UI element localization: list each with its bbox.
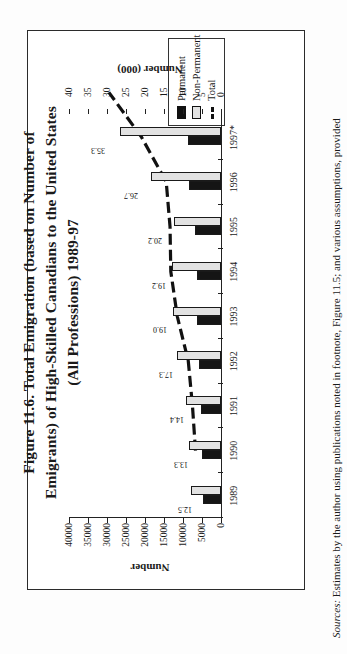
axis-tick-label-category: 1996 [228, 172, 239, 192]
axis-tick-label-left: 25000 [121, 523, 131, 547]
data-label-total: 35.3 [91, 146, 105, 155]
bar-permanent [195, 226, 221, 235]
axis-tick-label-left: 5000 [197, 523, 207, 542]
bar-non-permanent [172, 262, 221, 271]
axis-tick-label-left: 0 [216, 523, 226, 528]
axis-tick-left [183, 518, 184, 523]
plot-area [69, 114, 222, 518]
axis-tick-category [218, 204, 223, 205]
axis-tick-label-left: 30000 [102, 523, 112, 547]
axis-tick-label-category: 1990 [228, 441, 239, 461]
title-line-1: Figure 11.6. Total Emigration (based on … [18, 30, 40, 575]
axis-tick-left [202, 518, 203, 523]
bar-non-permanent [151, 172, 221, 181]
bar-group [69, 248, 221, 293]
axis-tick-category [218, 248, 223, 249]
bar-non-permanent [173, 307, 221, 316]
data-label-total: 14.4 [170, 415, 184, 424]
bar-group [69, 159, 221, 204]
data-label-total: 26.7 [124, 191, 138, 200]
axis-tick-label-category: 1991 [228, 396, 239, 416]
bar-non-permanent [120, 127, 221, 136]
axis-tick-left [107, 518, 108, 523]
axis-tick-label-category: 1994 [228, 262, 239, 282]
axis-tick-category [218, 293, 223, 294]
data-label-total: 19.0 [153, 325, 167, 334]
sources-label: Sources: [330, 600, 342, 638]
bar-non-permanent [177, 351, 221, 360]
bar-non-permanent [191, 486, 221, 495]
axis-tick-label-left: 20000 [140, 523, 150, 547]
data-label-total: 20.2 [148, 235, 162, 244]
axis-tick-category [218, 427, 223, 428]
bar-permanent [189, 181, 221, 190]
bar-permanent [203, 495, 221, 504]
axis-title-left: Number [130, 562, 169, 574]
axis-tick-left [88, 518, 89, 523]
sources-note: Sources: Estimates by the author using p… [330, 38, 347, 638]
axis-tick-label-left: 15000 [159, 523, 169, 547]
axis-tick-left [221, 518, 222, 523]
axis-tick-left [164, 518, 165, 523]
data-label-total: 19.2 [152, 280, 166, 289]
bar-permanent [202, 450, 221, 459]
axis-tick-label-category: 1995 [228, 217, 239, 237]
axis-tick-label-category: 1989 [228, 486, 239, 506]
bar-group [69, 293, 221, 338]
bar-permanent [188, 136, 221, 145]
axis-tick-left [145, 518, 146, 523]
bar-group [69, 472, 221, 517]
bar-group [69, 338, 221, 383]
axis-tick-category [218, 159, 223, 160]
sources-text: Estimates by the author using publicatio… [330, 118, 342, 600]
data-label-total: 12.5 [178, 504, 192, 513]
bar-group [69, 204, 221, 249]
bar-permanent [201, 405, 221, 414]
data-label-total: 13.3 [174, 459, 188, 468]
axis-tick-label-category: 1993 [228, 307, 239, 327]
bar-non-permanent [189, 441, 221, 450]
bar-group [69, 383, 221, 428]
bar-permanent [199, 360, 221, 369]
bar-non-permanent [186, 396, 221, 405]
axis-tick-category [218, 517, 223, 518]
axis-tick-label-category: 1997* [228, 125, 239, 150]
axis-left: 0500010000150002000025000300003500040000 [69, 518, 222, 562]
axis-tick-label-right: 40 [64, 88, 74, 98]
axis-tick-category [218, 383, 223, 384]
axis-tick-left [69, 518, 70, 523]
axis-tick-category [218, 472, 223, 473]
axis-category: 198919901991199219931994199519961997* [224, 114, 248, 518]
bar-non-permanent [174, 217, 221, 226]
bar-group [69, 427, 221, 472]
axis-tick-left [126, 518, 127, 523]
bar-permanent [197, 316, 221, 325]
chart-plot: Number 050001000015000200002500030000350… [47, 100, 252, 562]
bar-permanent [197, 271, 221, 280]
axis-tick-label-left: 40000 [64, 523, 74, 547]
axis-tick-category [218, 338, 223, 339]
axis-tick-label-left: 10000 [178, 523, 188, 547]
figure-page: Figure 11.6. Total Emigration (based on … [0, 0, 347, 654]
axis-tick-label-left: 35000 [83, 523, 93, 547]
axis-tick-label-category: 1992 [228, 351, 239, 371]
data-label-total: 17.3 [159, 370, 173, 379]
